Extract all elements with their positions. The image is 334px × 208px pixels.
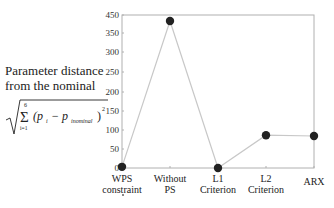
- series-line: [122, 21, 314, 168]
- y-tick-label: 100: [106, 125, 120, 135]
- data-series: [118, 17, 318, 172]
- data-point: [214, 164, 222, 172]
- y-tick-label: 50: [110, 144, 120, 154]
- y-tick-label: 450: [106, 10, 120, 20]
- y-tick-label: 150: [106, 106, 120, 116]
- chart-axes: [122, 15, 314, 168]
- y-tick-label: 350: [106, 28, 120, 38]
- data-point: [310, 132, 318, 140]
- y-axis-ticks: 450350300250200150100500: [106, 10, 125, 173]
- data-point: [118, 163, 126, 171]
- y-tick-label: 300: [106, 47, 120, 57]
- data-point: [166, 17, 174, 25]
- y-tick-label: 200: [106, 87, 120, 97]
- plot-frame: [122, 15, 314, 168]
- data-point: [262, 131, 270, 139]
- stray-dot: [122, 194, 124, 196]
- x-tick-label: ARX: [284, 176, 334, 187]
- y-tick-label: 250: [106, 67, 120, 77]
